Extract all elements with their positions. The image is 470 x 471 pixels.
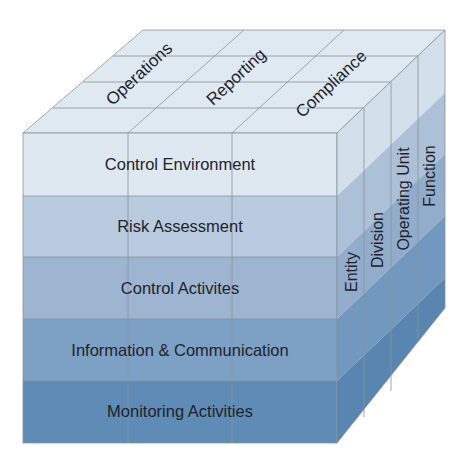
row-label-monitoring-activities: Monitoring Activities bbox=[107, 402, 253, 420]
side-label-entity: Entity bbox=[343, 252, 360, 292]
row-label-information-communication: Information & Communication bbox=[71, 341, 288, 359]
side-label-function: Function bbox=[421, 145, 438, 206]
row-label-control-environment: Control Environment bbox=[105, 155, 256, 173]
side-label-division: Division bbox=[369, 212, 386, 268]
coso-cube-diagram: Control Environment Risk Assessment Cont… bbox=[0, 0, 470, 471]
row-label-risk-assessment: Risk Assessment bbox=[117, 217, 243, 235]
row-label-control-activities: Control Activites bbox=[121, 279, 239, 297]
front-face: Control Environment Risk Assessment Cont… bbox=[23, 133, 337, 443]
side-label-operating-unit: Operating Unit bbox=[395, 147, 412, 251]
